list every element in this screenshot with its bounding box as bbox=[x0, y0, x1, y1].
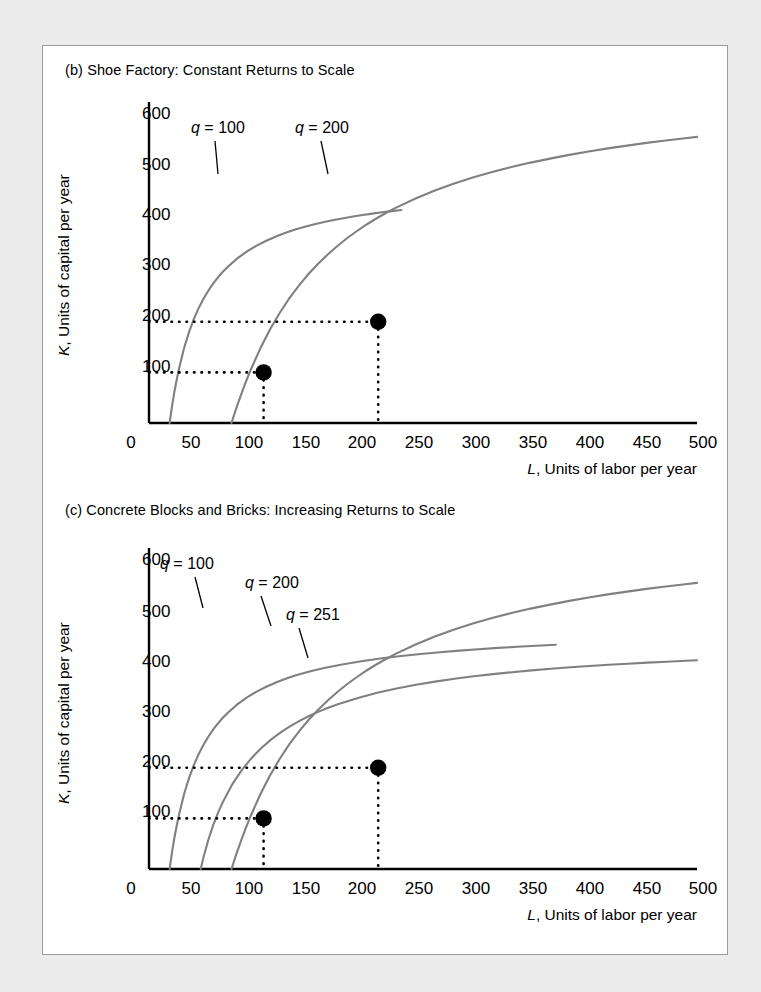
panel-b-point-100-100 bbox=[255, 364, 271, 380]
svg-text:q = 251: q = 251 bbox=[286, 606, 340, 623]
q-symbol: q bbox=[191, 119, 200, 136]
panel-c: (c) Concrete Blocks and Bricks: Increasi… bbox=[43, 486, 729, 956]
q-value: 100 bbox=[187, 555, 214, 572]
x-axis-symbol: L bbox=[527, 460, 536, 477]
x-tick-350: 350 bbox=[519, 433, 547, 452]
y-tick-600: 600 bbox=[142, 104, 170, 123]
x-tick-500: 500 bbox=[689, 433, 717, 452]
x-tick-50: 50 bbox=[182, 879, 201, 898]
x-axis-text: , Units of labor per year bbox=[536, 906, 697, 923]
q-equals: = bbox=[169, 555, 187, 572]
panel-b-y-ticks: 600 500 400 300 200 100 bbox=[142, 104, 170, 376]
panel-c-label-q251: q = 251 bbox=[286, 606, 340, 658]
panel-c-point-100-100 bbox=[255, 810, 271, 826]
panel-b-y-axis-title: K, Units of capital per year bbox=[55, 174, 72, 356]
panel-c-isoquant-q100 bbox=[170, 645, 556, 869]
panel-c-leader-q200 bbox=[261, 596, 271, 626]
panel-b-isoquant-q200 bbox=[232, 137, 698, 423]
panel-b-leader-q200 bbox=[321, 141, 328, 174]
panel-b-isoquant-q100 bbox=[170, 210, 402, 423]
x-tick-50: 50 bbox=[182, 433, 201, 452]
x-tick-0: 0 bbox=[126, 879, 135, 898]
y-tick-300: 300 bbox=[142, 255, 170, 274]
x-tick-100: 100 bbox=[235, 433, 263, 452]
x-tick-250: 250 bbox=[405, 433, 433, 452]
panel-c-y-ticks: 600 500 400 300 200 100 bbox=[142, 550, 170, 821]
x-tick-0: 0 bbox=[126, 433, 135, 452]
y-tick-400: 400 bbox=[142, 205, 170, 224]
panel-b-chart: K, Units of capital per year 600 500 400… bbox=[43, 46, 729, 501]
q-value: 200 bbox=[272, 574, 299, 591]
x-tick-200: 200 bbox=[348, 433, 376, 452]
q-equals: = bbox=[200, 119, 218, 136]
y-axis-symbol: K bbox=[55, 345, 72, 356]
y-axis-text: , Units of capital per year bbox=[55, 622, 72, 793]
x-tick-400: 400 bbox=[576, 879, 604, 898]
panel-c-label-q100: q = 100 bbox=[160, 555, 214, 608]
panel-b-point-200-200 bbox=[370, 314, 386, 330]
x-tick-300: 300 bbox=[462, 433, 490, 452]
y-tick-500: 500 bbox=[142, 602, 170, 621]
svg-text:q = 100: q = 100 bbox=[160, 555, 214, 572]
x-tick-500: 500 bbox=[689, 879, 717, 898]
q-symbol: q bbox=[295, 119, 304, 136]
svg-text:q = 200: q = 200 bbox=[245, 574, 299, 591]
q-symbol: q bbox=[245, 574, 254, 591]
svg-text:q = 200: q = 200 bbox=[295, 119, 349, 136]
y-tick-500: 500 bbox=[142, 155, 170, 174]
y-axis-text: , Units of capital per year bbox=[55, 174, 72, 345]
x-tick-450: 450 bbox=[633, 879, 661, 898]
panel-b: (b) Shoe Factory: Constant Returns to Sc… bbox=[43, 46, 729, 501]
panel-c-x-axis-title: L, Units of labor per year bbox=[527, 906, 697, 923]
q-value: 200 bbox=[322, 119, 349, 136]
x-tick-450: 450 bbox=[633, 433, 661, 452]
panel-b-label-q200: q = 200 bbox=[295, 119, 349, 174]
x-tick-350: 350 bbox=[519, 879, 547, 898]
panel-c-leader-q100 bbox=[195, 577, 203, 608]
panel-b-x-axis-title: L, Units of labor per year bbox=[527, 460, 697, 477]
svg-text:q = 100: q = 100 bbox=[191, 119, 245, 136]
panel-c-chart: K, Units of capital per year 600 500 400… bbox=[43, 486, 729, 956]
x-tick-150: 150 bbox=[292, 879, 320, 898]
y-tick-300: 300 bbox=[142, 702, 170, 721]
x-tick-300: 300 bbox=[462, 879, 490, 898]
panel-c-y-axis-title: K, Units of capital per year bbox=[55, 622, 72, 804]
x-tick-200: 200 bbox=[348, 879, 376, 898]
q-value: 100 bbox=[218, 119, 245, 136]
y-tick-400: 400 bbox=[142, 652, 170, 671]
q-symbol: q bbox=[160, 555, 169, 572]
svg-text:K, Units of capital per year: K, Units of capital per year bbox=[55, 622, 72, 804]
figure-card: (b) Shoe Factory: Constant Returns to Sc… bbox=[42, 45, 728, 955]
x-tick-400: 400 bbox=[576, 433, 604, 452]
x-axis-symbol: L bbox=[527, 906, 536, 923]
panel-b-label-q100: q = 100 bbox=[191, 119, 245, 174]
q-equals: = bbox=[254, 574, 272, 591]
x-tick-250: 250 bbox=[405, 879, 433, 898]
q-symbol: q bbox=[286, 606, 295, 623]
panel-c-point-200-200 bbox=[370, 760, 386, 776]
y-axis-symbol: K bbox=[55, 793, 72, 804]
q-equals: = bbox=[304, 119, 322, 136]
q-equals: = bbox=[295, 606, 313, 623]
panel-c-leader-q251 bbox=[299, 628, 308, 658]
panel-b-leader-q100 bbox=[215, 141, 218, 174]
x-tick-150: 150 bbox=[292, 433, 320, 452]
x-axis-text: , Units of labor per year bbox=[536, 460, 697, 477]
panel-c-isoquant-q251 bbox=[232, 583, 698, 869]
panel-c-x-ticks: 0 50 100 150 200 250 300 350 400 450 500 bbox=[126, 879, 717, 898]
x-tick-100: 100 bbox=[235, 879, 263, 898]
panel-b-x-ticks: 0 50 100 150 200 250 300 350 400 450 500 bbox=[126, 433, 717, 452]
svg-text:K, Units of capital per year: K, Units of capital per year bbox=[55, 174, 72, 356]
q-value: 251 bbox=[313, 606, 340, 623]
